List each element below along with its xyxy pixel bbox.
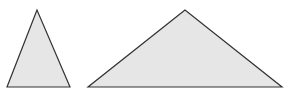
diagram-canvas (0, 0, 287, 96)
narrow-tall-triangle (7, 10, 70, 87)
wide-obtuse-triangle (88, 10, 282, 87)
